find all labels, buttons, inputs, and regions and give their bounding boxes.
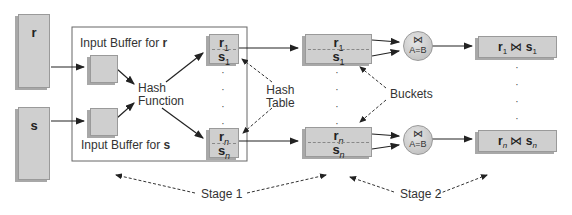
input-buffer-r — [90, 55, 118, 83]
join-icon: ⋈ — [510, 134, 522, 148]
relation-s-label: s — [19, 118, 49, 133]
stage-2-label: Stage 2 — [400, 188, 441, 200]
bucket-n: rn sn — [305, 127, 372, 157]
buckets-ellipsis: ···· — [333, 64, 341, 132]
hash-function-label: Hash Function — [138, 82, 184, 108]
join-icon: ⋈ — [404, 35, 432, 45]
hash-table-label: Hash Table — [266, 84, 295, 110]
hash-table-sn: sn — [210, 143, 238, 161]
relation-r-label: r — [19, 25, 49, 40]
relation-s: s — [18, 107, 50, 180]
hash-table-bucket-n: rn sn — [209, 128, 239, 158]
relation-r: r — [18, 14, 50, 88]
input-buffer-s-label: Input Buffer for s — [81, 139, 170, 151]
result-n: rn ⋈ sn — [478, 130, 557, 152]
join-operator-n: ⋈ A=B — [403, 125, 433, 155]
hash-table-ellipsis: ···· — [219, 64, 227, 132]
stage-1-label: Stage 1 — [201, 188, 242, 200]
input-buffer-r-label: Input Buffer for r — [80, 37, 167, 49]
result-1: r1 ⋈ s1 — [478, 36, 557, 58]
bucket-1: r1 s1 — [305, 34, 372, 64]
join-icon: ⋈ — [510, 40, 522, 54]
buckets-label: Buckets — [390, 88, 433, 100]
join-operator-1: ⋈ A=B — [403, 31, 433, 61]
hash-table-bucket-1: r1 s1 — [209, 34, 239, 64]
bucket-sn: sn — [306, 142, 371, 160]
input-buffer-s — [90, 108, 118, 136]
results-ellipsis: ···· — [513, 59, 521, 127]
join-icon: ⋈ — [404, 129, 432, 139]
